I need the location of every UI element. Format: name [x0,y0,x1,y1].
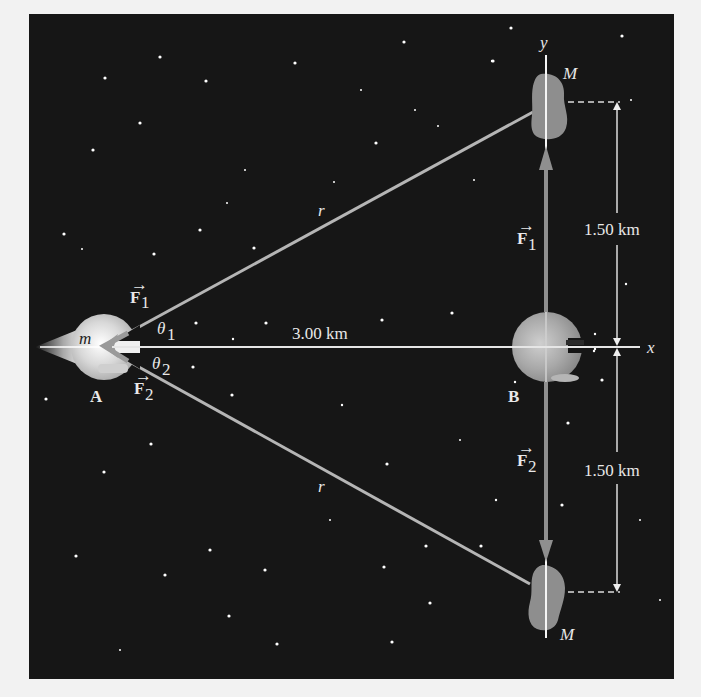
svg-text:→: → [518,438,535,457]
ship-b-label: B [508,387,519,406]
svg-text:θ: θ [157,319,165,338]
ship-a-mass-label: m [79,329,91,348]
x-axis-label: x [646,338,655,357]
svg-text:1: 1 [167,325,176,344]
gravitational-force-diagram: y x M M m A B F 1 → F 2 → F 1 → F 2 → θ … [0,0,701,697]
svg-text:2: 2 [162,360,171,379]
svg-text:1: 1 [528,235,537,254]
asteroid-top [531,74,567,140]
svg-text:1: 1 [141,293,150,312]
ship-a-label: A [90,387,103,406]
vertical-distance-top-label: 1.50 km [584,220,640,239]
asteroid-top-label: M [562,64,578,83]
svg-text:→: → [518,216,535,235]
svg-text:→: → [135,366,152,385]
svg-text:→: → [131,275,148,294]
horizontal-distance-label: 3.00 km [292,324,348,343]
svg-text:2: 2 [145,385,154,404]
vertical-distance-bottom-label: 1.50 km [584,461,640,480]
svg-text:θ: θ [152,354,160,373]
y-axis-label: y [538,33,548,52]
r-label-bottom: r [318,477,325,496]
asteroid-bottom-label: M [559,625,575,644]
force-label-f1-a: F 1 → [130,275,150,312]
svg-text:2: 2 [528,457,537,476]
r-label-top: r [318,201,325,220]
